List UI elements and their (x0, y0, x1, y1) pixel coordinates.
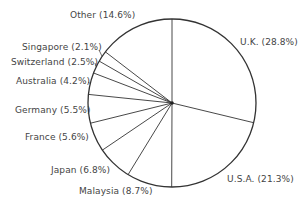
label-australia: Australia (4.2%) (16, 76, 90, 86)
label-other: Other (14.6%) (70, 10, 135, 20)
label-malaysia: Malaysia (8.7%) (79, 186, 153, 196)
label-usa: U.S.A. (21.3%) (227, 174, 294, 184)
label-uk: U.K. (28.8%) (240, 37, 298, 47)
label-france: France (5.6%) (25, 132, 89, 142)
center-point (170, 101, 174, 105)
label-germany: Germany (5.5%) (15, 105, 91, 115)
label-switzerland: Switzerland (2.5%) (11, 57, 98, 67)
label-singapore: Singapore (2.1%) (22, 42, 102, 52)
label-japan: Japan (6.8%) (51, 165, 110, 175)
